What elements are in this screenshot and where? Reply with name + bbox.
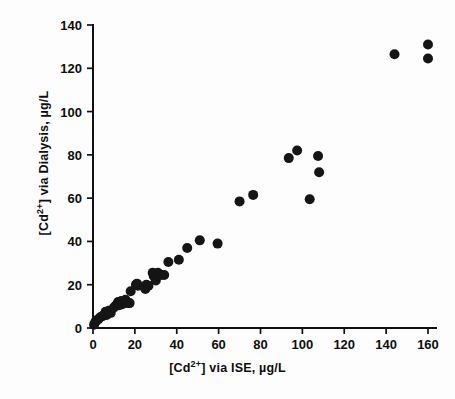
y-axis-label-container: [Cd2+] via Dialysis, µg/L	[37, 33, 51, 293]
x-tick-label-100: 100	[292, 337, 314, 352]
y-axis-label: [Cd2+] via Dialysis, µg/L	[37, 33, 51, 293]
x-axis-label: [Cd2+] via ISE, µg/L	[0, 361, 455, 375]
data-point	[163, 257, 173, 267]
x-tick-label-140: 140	[375, 337, 397, 352]
y-axis: 020406080100120140	[60, 18, 93, 336]
y-tick-label-100: 100	[60, 105, 82, 120]
data-point	[235, 196, 245, 206]
x-tick-label-60: 60	[211, 337, 225, 352]
scatter-plot-figure: 020406080100120140 020406080100120140160…	[0, 0, 455, 399]
plot-canvas: 020406080100120140 020406080100120140160	[0, 0, 455, 399]
data-point	[423, 54, 433, 64]
x-axis: 020406080100120140160	[89, 328, 438, 352]
data-point	[248, 190, 258, 200]
data-point	[174, 255, 184, 265]
y-tick-label-0: 0	[75, 321, 82, 336]
x-tick-label-160: 160	[417, 337, 439, 352]
y-axis-tick-labels: 020406080100120140	[60, 18, 82, 336]
x-tick-label-40: 40	[170, 337, 184, 352]
x-axis-tick-labels: 020406080100120140160	[89, 337, 438, 352]
data-point	[159, 270, 169, 280]
data-point	[125, 298, 135, 308]
data-point	[213, 239, 223, 249]
data-point	[284, 153, 294, 163]
data-point	[292, 146, 302, 156]
data-point	[314, 167, 324, 177]
y-tick-label-40: 40	[68, 234, 82, 249]
y-tick-label-140: 140	[60, 18, 82, 33]
data-point	[390, 49, 400, 59]
y-tick-label-20: 20	[68, 278, 82, 293]
x-tick-label-0: 0	[89, 337, 96, 352]
y-tick-label-120: 120	[60, 61, 82, 76]
y-tick-label-60: 60	[68, 191, 82, 206]
data-point	[313, 151, 323, 161]
y-tick-label-80: 80	[68, 148, 82, 163]
x-tick-label-20: 20	[128, 337, 142, 352]
data-point-series	[89, 39, 433, 329]
data-point	[423, 39, 433, 49]
x-tick-label-80: 80	[253, 337, 267, 352]
data-point	[195, 235, 205, 245]
data-point	[305, 194, 315, 204]
data-point	[182, 243, 192, 253]
x-tick-label-120: 120	[333, 337, 355, 352]
